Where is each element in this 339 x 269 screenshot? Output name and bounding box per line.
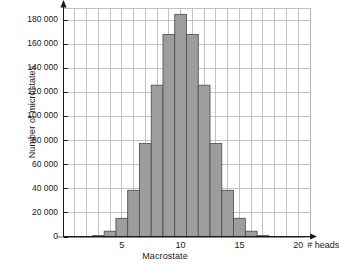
- x-axis-tick-label: 5: [102, 240, 142, 250]
- x-axis-tick-label: 10: [161, 240, 201, 250]
- x-axis-title: Macrostate: [55, 251, 275, 261]
- x-axis-unit-label: # heads: [307, 240, 339, 250]
- x-axis-tick-label: 15: [219, 240, 259, 250]
